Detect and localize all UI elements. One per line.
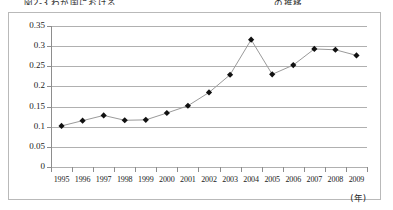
x-axis-tick-label: 2009 xyxy=(343,175,369,184)
y-axis-labels: 00.050.10.150.20.250.30.35 xyxy=(9,13,45,201)
data-point-marker xyxy=(248,37,254,43)
plot-wrap: 00.050.10.150.20.250.30.35 1995199619971… xyxy=(9,13,382,201)
line-series xyxy=(51,26,367,167)
x-axis-tick xyxy=(156,167,157,172)
data-point-marker xyxy=(185,103,191,109)
x-axis-tick xyxy=(177,167,178,172)
x-axis-tick xyxy=(51,167,52,172)
y-axis-tick-label: 0.2 xyxy=(11,81,45,90)
x-axis-tick xyxy=(135,167,136,172)
x-axis-tick xyxy=(93,167,94,172)
data-point-marker xyxy=(80,118,86,124)
x-axis-tick xyxy=(262,167,263,172)
x-axis-tick xyxy=(283,167,284,172)
x-axis-unit-label: (年) xyxy=(350,191,366,203)
data-point-marker xyxy=(122,117,128,123)
y-axis-tick-label: 0.35 xyxy=(11,21,45,30)
x-axis-tick xyxy=(304,167,305,172)
gridline xyxy=(51,167,367,168)
y-axis-tick-label: 0.05 xyxy=(11,142,45,151)
data-point-marker xyxy=(353,52,359,58)
x-axis-tick xyxy=(220,167,221,172)
data-point-marker xyxy=(143,117,149,123)
figure-caption: 図2-3 わが国における の推移 xyxy=(24,0,302,5)
y-axis-tick-label: 0.15 xyxy=(11,102,45,111)
data-point-marker xyxy=(101,112,107,118)
x-axis-tick xyxy=(198,167,199,172)
x-axis-tick xyxy=(346,167,347,172)
x-axis-tick xyxy=(325,167,326,172)
data-point-marker xyxy=(164,110,170,116)
data-point-marker xyxy=(332,47,338,53)
y-axis-tick-label: 0.3 xyxy=(11,41,45,50)
data-point-marker xyxy=(58,123,64,129)
plot-area xyxy=(51,26,367,167)
data-point-marker xyxy=(269,71,275,77)
y-axis-tick-label: 0 xyxy=(11,162,45,171)
x-axis-tick xyxy=(367,167,368,172)
x-axis-tick xyxy=(72,167,73,172)
y-axis-tick-label: 0.1 xyxy=(11,122,45,131)
y-axis-tick-label: 0.25 xyxy=(11,61,45,70)
x-axis-tick xyxy=(114,167,115,172)
series-line xyxy=(62,40,357,126)
chart-frame: 00.050.10.150.20.250.30.35 1995199619971… xyxy=(8,12,381,200)
x-axis-tick xyxy=(241,167,242,172)
